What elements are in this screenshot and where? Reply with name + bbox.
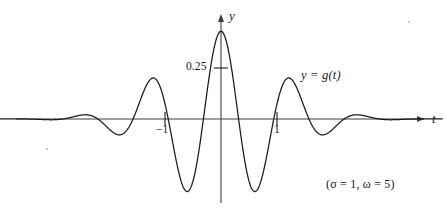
x-tick-label-positive-1: 1 xyxy=(274,124,280,136)
scan-speck-left xyxy=(46,148,48,150)
y-axis xyxy=(218,14,224,203)
y-axis-arrowhead xyxy=(218,14,224,22)
parameters-annotation: (σ = 1, ω = 5) xyxy=(326,178,395,190)
t-axis-label: t xyxy=(432,112,436,125)
t-axis xyxy=(16,116,424,122)
x-tick-label-negative-1: −1 xyxy=(156,124,168,136)
y-tick-label-0.25: 0.25 xyxy=(186,61,207,73)
y-axis-label: y xyxy=(229,9,235,22)
figure-container: y t 0.25 −1 1 y = g(t) (σ = 1, ω = 5) xyxy=(0,0,446,211)
scan-speck-right xyxy=(408,21,410,23)
curve-equation-label: y = g(t) xyxy=(301,69,341,82)
